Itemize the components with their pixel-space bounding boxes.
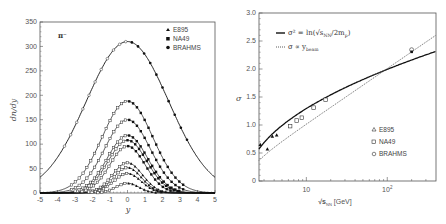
left-x-tick-label: 4 xyxy=(196,196,200,203)
right-y-tick-label: 2.5 xyxy=(246,37,256,44)
left-y-tick-label: 350 xyxy=(25,18,37,25)
right-x-tick-label: 102 xyxy=(382,185,393,193)
formula-sqrt-log: σ² = ln(√sNN/2mp) xyxy=(288,29,351,38)
left-fit-curves xyxy=(40,42,215,194)
triangle-icon xyxy=(166,28,170,31)
left-x-tick-label: -3 xyxy=(72,196,78,203)
circle-open-icon xyxy=(372,152,376,156)
left-y-tick-label: 200 xyxy=(25,92,37,99)
left-legend: E895 NA49 BRAHMS xyxy=(166,26,201,51)
right-y-tick-label: 1.5 xyxy=(246,93,256,100)
right-legend-na49: NA49 xyxy=(379,138,396,145)
left-legend-e895: E895 xyxy=(173,26,189,33)
square-icon xyxy=(166,37,170,41)
right-data-points xyxy=(259,48,414,151)
right-y-axis: 00.51.01.52.02.53.0 xyxy=(246,9,262,184)
right-legend-e895: E895 xyxy=(379,126,395,133)
square-open-icon xyxy=(372,140,376,144)
left-x-tick-label: -1 xyxy=(107,196,113,203)
right-plot-frame xyxy=(259,13,436,181)
left-x-tick-label: 1 xyxy=(143,196,147,203)
formula-ybeam: σ ∝ ybeam xyxy=(288,43,319,52)
left-x-tick-label: 2 xyxy=(161,196,165,203)
left-y-tick-label: 250 xyxy=(25,67,37,74)
left-x-tick-label: 3 xyxy=(178,196,182,203)
right-y-tick-label: 0.5 xyxy=(246,149,256,156)
left-chart: 050100150200250300350 -5-4-3-2-1012345 π… xyxy=(9,18,217,214)
left-x-tick-label: -4 xyxy=(54,196,60,203)
left-y-tick-label: 50 xyxy=(29,165,37,172)
left-x-tick-label: -2 xyxy=(89,196,95,203)
right-y-tick-label: 0 xyxy=(252,177,256,184)
left-x-axis: -5-4-3-2-1012345 xyxy=(37,190,217,203)
right-y-tick-label: 2.0 xyxy=(246,65,256,72)
right-formula-legend: σ² = ln(√sNN/2mp) σ ∝ ybeam xyxy=(276,29,351,52)
left-x-tick-label: 5 xyxy=(213,196,217,203)
left-data-points xyxy=(63,40,188,193)
right-fit-curves xyxy=(259,36,435,161)
chart-canvas: 050100150200250300350 -5-4-3-2-1012345 π… xyxy=(0,0,446,224)
left-annotation: π⁻ xyxy=(58,31,67,40)
right-x-axis: 10102 xyxy=(264,177,426,193)
left-y-tick-label: 150 xyxy=(25,116,37,123)
left-x-tick-label: -5 xyxy=(37,196,43,203)
right-y-tick-label: 1.0 xyxy=(246,121,256,128)
triangle-open-icon xyxy=(372,128,376,132)
left-y-tick-label: 100 xyxy=(25,140,37,147)
left-legend-brahms: BRAHMS xyxy=(173,44,201,51)
circle-icon xyxy=(166,46,170,50)
left-x-axis-title: y xyxy=(125,205,131,214)
right-y-axis-title: σ xyxy=(236,94,242,103)
left-y-tick-label: 300 xyxy=(25,43,37,50)
right-x-axis-title: √sNN[GeV] xyxy=(318,198,351,207)
right-x-tick-label: 10 xyxy=(302,186,310,193)
left-x-tick-label: 0 xyxy=(126,196,130,203)
right-legend-brahms: BRAHMS xyxy=(379,150,407,157)
right-chart: 00.51.01.52.02.53.0 10102 σ² = ln(√sNN/2… xyxy=(236,9,436,206)
left-y-axis-title: dn/dy xyxy=(9,98,18,121)
left-legend-na49: NA49 xyxy=(173,35,190,42)
right-marker-legend: E895 NA49 BRAHMS xyxy=(372,126,407,157)
right-y-tick-label: 3.0 xyxy=(246,9,256,16)
figure: 050100150200250300350 -5-4-3-2-1012345 π… xyxy=(0,0,446,224)
